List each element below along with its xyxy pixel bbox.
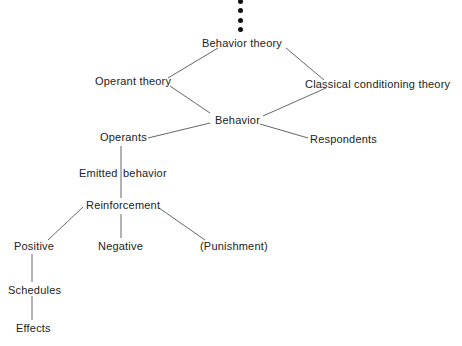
ellipsis-dot bbox=[238, 27, 243, 32]
node-emitted-behavior-part1: Emitted bbox=[79, 167, 118, 180]
node-effects: Effects bbox=[16, 322, 51, 335]
node-respondents: Respondents bbox=[310, 133, 377, 146]
node-operants: Operants bbox=[100, 131, 147, 144]
node-negative: Negative bbox=[98, 240, 143, 253]
node-schedules: Schedules bbox=[8, 284, 61, 297]
node-reinforcement: Reinforcement bbox=[86, 199, 160, 212]
node-behavior: Behavior bbox=[215, 114, 260, 127]
node-positive: Positive bbox=[14, 240, 54, 253]
node-operant-theory: Operant theory bbox=[95, 75, 171, 88]
ellipsis-dot bbox=[238, 8, 243, 13]
ellipsis-dot bbox=[238, 18, 243, 23]
node-emitted-behavior-part2: behavior bbox=[123, 167, 167, 180]
node-punishment: (Punishment) bbox=[200, 240, 268, 253]
node-behavior-theory: Behavior theory bbox=[202, 37, 282, 50]
connector-lines bbox=[0, 0, 462, 346]
node-classical-conditioning-theory: Classical conditioning theory bbox=[305, 78, 450, 91]
